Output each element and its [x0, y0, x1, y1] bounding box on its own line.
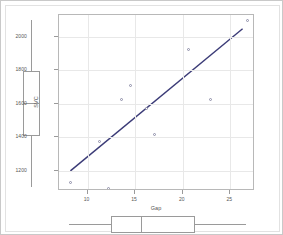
boxplot-whisker: [69, 224, 111, 225]
x-tick-mark: [87, 190, 88, 194]
plot-area: [59, 15, 253, 189]
x-tick-label: 10: [84, 196, 90, 202]
marginal-boxplot-x: [58, 214, 254, 234]
y-tick-label: 1400: [15, 133, 27, 139]
boxplot-box: [111, 216, 195, 233]
x-tick-mark: [229, 190, 230, 194]
screenshot-frame: SVC 12001400160018002000 10152025 Gap: [0, 0, 283, 235]
scatter-point: [69, 181, 72, 184]
x-tick-mark: [134, 190, 135, 194]
x-tick-mark: [182, 190, 183, 194]
scatter-point: [107, 187, 110, 190]
x-tick-label: 25: [227, 196, 233, 202]
scatter-point: [153, 133, 156, 136]
y-tick-label: 1600: [15, 100, 27, 106]
x-tick-label: 20: [179, 196, 185, 202]
boxplot-whisker: [195, 224, 246, 225]
y-tick-label: 1200: [15, 167, 27, 173]
gridline-vertical: [135, 15, 136, 189]
scatter-point: [129, 84, 132, 87]
x-tick-label: 15: [131, 196, 137, 202]
scatter-point: [209, 98, 212, 101]
scatter-plot-panel: [58, 14, 254, 190]
x-axis-label: Gap: [58, 205, 254, 211]
gridline-vertical: [183, 15, 184, 189]
gridline-vertical: [88, 15, 89, 189]
boxplot-whisker: [31, 20, 32, 71]
boxplot-median: [141, 216, 142, 233]
gridline-vertical: [230, 15, 231, 189]
y-tick-label: 1800: [15, 66, 27, 72]
boxplot-whisker: [31, 136, 32, 187]
y-tick-label: 2000: [15, 33, 27, 39]
figure-panel: SVC 12001400160018002000 10152025 Gap: [5, 5, 280, 232]
y-axis-label: SVC: [33, 96, 39, 107]
scatter-point: [145, 107, 148, 110]
